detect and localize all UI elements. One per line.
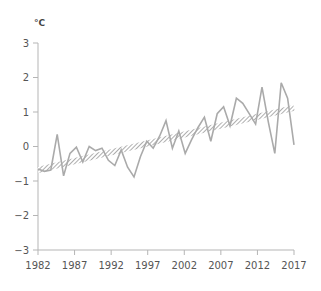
x-tick-label: 2002 xyxy=(172,260,197,271)
x-tick-label: 1987 xyxy=(62,260,87,271)
x-tick-label: 2012 xyxy=(245,260,270,271)
y-tick-label: −1 xyxy=(14,176,29,187)
x-tick-label: 1997 xyxy=(135,260,160,271)
y-tick-label: 0 xyxy=(23,141,29,152)
y-tick-label: 1 xyxy=(23,107,29,118)
trend-line xyxy=(37,105,294,173)
x-tick-label: 1992 xyxy=(98,260,123,271)
y-axis: 3210−1−2−3 xyxy=(14,38,38,256)
y-tick-label: 2 xyxy=(23,72,29,83)
x-tick-label: 2007 xyxy=(208,260,233,271)
y-tick-label: −2 xyxy=(14,210,29,221)
x-tick-label: 2017 xyxy=(281,260,306,271)
x-axis: 19821987199219972002200720122017 xyxy=(25,250,306,271)
unit-label: °C xyxy=(34,18,46,28)
y-tick-label: 3 xyxy=(23,38,29,49)
y-tick-label: −3 xyxy=(14,245,29,256)
x-tick-label: 1982 xyxy=(25,260,50,271)
temperature-anomaly-chart: °C 3210−1−2−3 19821987199219972002200720… xyxy=(0,0,321,291)
